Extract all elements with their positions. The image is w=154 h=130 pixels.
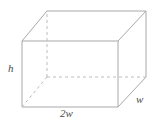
height-label: h — [8, 63, 14, 74]
top-right-diagonal-edge — [118, 11, 146, 41]
hidden-bottom-left-diagonal-edge — [22, 77, 47, 107]
front-face-edges — [22, 41, 118, 107]
width-label: 2w — [60, 108, 73, 119]
depth-label: w — [136, 94, 143, 105]
back-face-edges — [47, 11, 146, 77]
prism-drawing — [0, 0, 154, 130]
hidden-edges — [22, 11, 146, 107]
top-left-diagonal-edge — [22, 11, 47, 41]
connecting-edges — [22, 11, 146, 107]
rectangular-prism-figure: h 2w w — [0, 0, 154, 130]
